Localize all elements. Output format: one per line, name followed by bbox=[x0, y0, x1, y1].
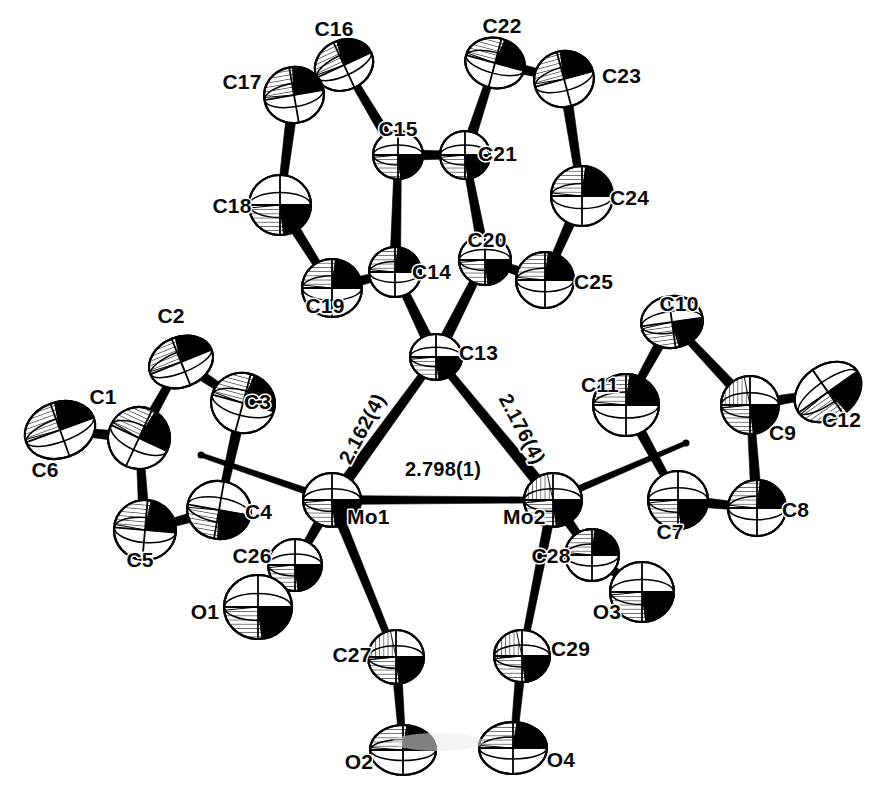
atom-label-c1: C1 bbox=[89, 385, 116, 408]
atom-label-c7: C7 bbox=[656, 520, 683, 543]
atom-ellipsoid-c24 bbox=[551, 166, 613, 226]
atom-label-c10: C10 bbox=[659, 292, 698, 315]
atom-label-c5: C5 bbox=[126, 548, 153, 571]
atom-ellipsoid-c18 bbox=[249, 175, 311, 235]
atom-label-c26: C26 bbox=[232, 544, 271, 567]
atom-label-c16: C16 bbox=[314, 17, 353, 40]
atom-label-c3: C3 bbox=[244, 390, 271, 413]
atom-label-c13: C13 bbox=[459, 341, 498, 364]
atom-label-c4: C4 bbox=[245, 500, 272, 523]
atom-label-o3: O3 bbox=[593, 600, 621, 623]
bond-distance-label-mo1-mo2: 2.798(1) bbox=[405, 458, 481, 480]
atom-ellipsoid-c27 bbox=[368, 630, 424, 684]
atom-ellipsoid-c2 bbox=[141, 326, 221, 397]
atom-label-o4: O4 bbox=[547, 748, 576, 771]
atom-ellipsoid-c28 bbox=[565, 529, 619, 581]
atom-ellipsoid-o4 bbox=[479, 722, 547, 774]
atom-ellipsoid-o1 bbox=[224, 575, 292, 639]
atom-label-c14: C14 bbox=[412, 260, 451, 283]
atom-label-c29: C29 bbox=[551, 637, 590, 660]
atom-label-c12: C12 bbox=[822, 408, 861, 431]
bond-distance-label-layer: 2.162(4)2.176(4)2.798(1) bbox=[334, 390, 550, 480]
atom-ellipsoid-c13 bbox=[410, 334, 462, 380]
atom-label-c9: C9 bbox=[769, 421, 796, 444]
atom-ellipsoid-c23 bbox=[528, 44, 600, 114]
atom-label-c11: C11 bbox=[581, 373, 619, 396]
bond-mo1-mo2 bbox=[332, 496, 553, 505]
atom-label-c22: C22 bbox=[482, 14, 521, 37]
ortep-figure: C1C2C3C4C5C6C7C8C9C10C11C12C13C14C15C16C… bbox=[0, 0, 872, 795]
atom-ellipsoid-layer bbox=[17, 30, 872, 775]
atom-label-c23: C23 bbox=[602, 64, 641, 87]
atom-label-o2: O2 bbox=[345, 750, 373, 773]
scan-artifact bbox=[392, 733, 484, 751]
centroid-cap-2 bbox=[683, 440, 690, 447]
atom-label-o1: O1 bbox=[191, 600, 220, 623]
atom-label-c18: C18 bbox=[212, 194, 251, 217]
ortep-canvas: C1C2C3C4C5C6C7C8C9C10C11C12C13C14C15C16C… bbox=[0, 0, 872, 795]
atom-label-c25: C25 bbox=[574, 270, 613, 293]
atom-ellipsoid-c22 bbox=[460, 31, 531, 95]
centroid-cap-1 bbox=[198, 452, 205, 459]
atom-label-mo1: Mo1 bbox=[347, 505, 390, 528]
atom-ellipsoid-c8 bbox=[728, 480, 786, 536]
atom-ellipsoid-c25 bbox=[516, 252, 574, 308]
atom-label-c19: C19 bbox=[305, 294, 344, 317]
atom-label-c28: C28 bbox=[531, 544, 570, 567]
atom-label-mo2: Mo2 bbox=[503, 505, 546, 528]
atom-ellipsoid-c1 bbox=[98, 397, 180, 479]
atom-label-c24: C24 bbox=[610, 186, 649, 209]
atom-ellipsoid-c29 bbox=[494, 630, 550, 682]
atom-label-c2: C2 bbox=[157, 304, 184, 327]
atom-label-c21: C21 bbox=[478, 142, 517, 165]
atom-label-c27: C27 bbox=[332, 643, 371, 666]
atom-label-c20: C20 bbox=[467, 228, 506, 251]
atom-label-c6: C6 bbox=[31, 458, 58, 481]
atom-label-c8: C8 bbox=[782, 498, 809, 521]
atom-label-c15: C15 bbox=[378, 117, 417, 140]
atom-label-c17: C17 bbox=[222, 70, 261, 93]
